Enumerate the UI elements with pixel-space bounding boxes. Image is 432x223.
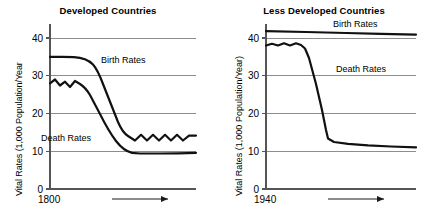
ytick-label-10-right: 10 (248, 146, 260, 157)
ytick-label-10-left: 10 (32, 146, 44, 157)
x-axis-direction-arrow-left (112, 196, 168, 202)
plot-area-left: 40 30 20 10 0 Birth Rates Death Rates 18… (0, 0, 216, 223)
ytick-label-40-left: 40 (32, 33, 44, 44)
x-axis-direction-arrow-right (328, 196, 384, 202)
plot-area-right: 40 30 20 10 0 Birth Rates Death Rates Vi… (216, 0, 432, 223)
ytick-label-20-left: 20 (32, 108, 44, 119)
series-curve-birth-right (266, 31, 416, 34)
series-curve-death-right (266, 43, 416, 147)
ytick-label-0-right: 0 (253, 184, 259, 195)
series-curve-birth-left (50, 57, 196, 141)
y-axis-label-right: Vital Rates (1,000 Population/Year) (234, 56, 244, 196)
x-axis-start-label-left: 1800 (38, 194, 61, 205)
ytick-label-30-left: 30 (32, 70, 44, 81)
ytick-label-20-right: 20 (248, 108, 260, 119)
ytick-label-30-right: 30 (248, 70, 260, 81)
series-label-death-right: Death Rates (336, 64, 387, 74)
series-label-death-left: Death Rates (41, 133, 92, 143)
figure-root: Developed Countries Vital Rates (1,000 P… (0, 0, 432, 223)
series-label-birth-right: Birth Rates (333, 19, 378, 29)
chart-panel-less-developed-countries: Less Developed Countries 40 30 20 10 0 (216, 0, 432, 223)
chart-panel-developed-countries: Developed Countries Vital Rates (1,000 P… (0, 0, 216, 223)
ytick-label-40-right: 40 (248, 33, 260, 44)
series-label-birth-left: Birth Rates (101, 55, 146, 65)
x-axis-start-label-right: 1940 (254, 194, 277, 205)
ytick-label-0-left: 0 (37, 184, 43, 195)
